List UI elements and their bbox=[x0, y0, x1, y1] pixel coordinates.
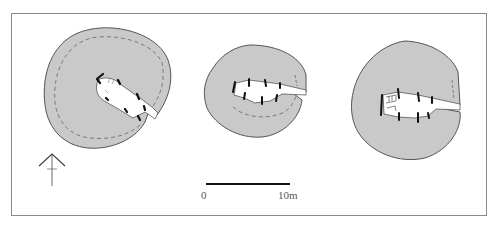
structure-1-plan bbox=[44, 28, 171, 148]
scale-end-label: 10m bbox=[278, 190, 298, 201]
site-plans bbox=[0, 0, 499, 228]
structure-3-plan bbox=[352, 41, 461, 160]
structure-2-plan bbox=[204, 45, 306, 137]
north-arrow-icon bbox=[39, 154, 65, 186]
scale-start-label: 0 bbox=[201, 190, 207, 201]
